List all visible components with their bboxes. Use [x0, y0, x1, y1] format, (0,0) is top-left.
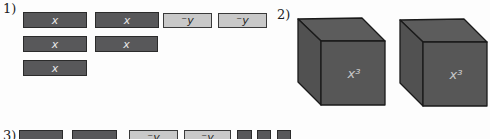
algebra-tile-x: x [23, 60, 87, 76]
algebra-tile-unit [277, 130, 291, 139]
x-cubed-cube: x³ [297, 17, 387, 108]
algebra-tile-neg-y: ⁻y [129, 130, 178, 139]
algebra-tile-x: x [95, 36, 158, 52]
algebra-tile-x [19, 130, 63, 139]
algebra-tile-neg-y: ⁻y [218, 13, 267, 28]
problem-2-label: 2) [277, 7, 290, 22]
algebra-tile-unit [257, 130, 271, 139]
problem-3-label: 3) [3, 128, 16, 139]
algebra-tile-neg-y: ⁻y [184, 130, 231, 139]
algebra-tile-x: x [23, 36, 87, 52]
algebra-tile-unit [237, 130, 252, 139]
algebra-tiles-worksheet: 1) x x ⁻y ⁻y x x x 2) x³ x³ 3) ⁻y ⁻y [0, 0, 490, 139]
cube-label: x³ [449, 67, 463, 82]
algebra-tile-x: x [23, 12, 87, 28]
algebra-tile-neg-y: ⁻y [163, 13, 212, 28]
x-cubed-cube: x³ [399, 18, 489, 109]
algebra-tile-x: x [95, 12, 159, 28]
cube-label: x³ [347, 66, 361, 81]
problem-1-label: 1) [3, 1, 16, 16]
algebra-tile-x [72, 130, 117, 139]
